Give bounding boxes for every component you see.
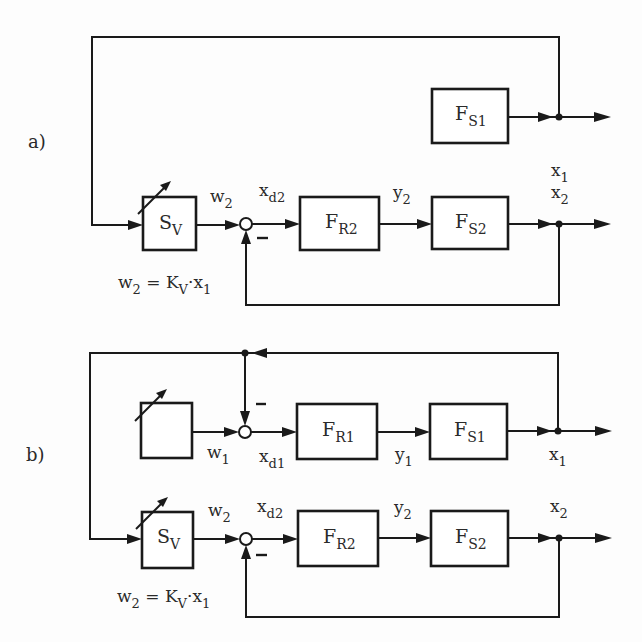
part-b: b) FR1 FS1: [26, 348, 612, 617]
arrowhead-icon: [595, 426, 612, 436]
diagram-canvas: a) SV FR2 FS2: [0, 0, 642, 642]
setpoint-block: [135, 389, 192, 458]
gain-formula: w2 = KV·x1: [118, 272, 211, 297]
arrowhead-icon: [538, 219, 553, 229]
summing-junction: [240, 533, 252, 545]
signal-xd2: xd2: [259, 180, 285, 205]
part-a: a) SV FR2 FS2: [28, 37, 611, 305]
arrowhead-icon: [537, 426, 552, 436]
fs2-block: FS2: [432, 197, 508, 249]
arrowhead-icon: [594, 112, 611, 122]
arrowhead-icon: [225, 534, 240, 544]
signal-x1-b: x1: [549, 444, 567, 469]
arrowhead-icon: [282, 427, 297, 437]
arrowhead-icon: [538, 533, 553, 543]
arrowhead-icon: [224, 427, 239, 437]
fr2-block-b: FR2: [298, 511, 378, 566]
sv-block: SV: [138, 181, 196, 250]
signal-y2-b: y2: [393, 497, 412, 522]
arrowhead-icon: [128, 220, 143, 230]
arrowhead-icon: [417, 219, 432, 229]
signal-w2-b: w2: [208, 500, 231, 525]
signal-xd1: xd1: [259, 446, 285, 471]
signal-y2: y2: [392, 182, 411, 207]
arrowhead-icon: [538, 112, 553, 122]
fs1-block-b: FS1: [430, 404, 507, 459]
arrowhead-icon: [285, 219, 300, 229]
signal-x2-b: x2: [550, 496, 568, 521]
signal-xd2-b: xd2: [257, 496, 283, 521]
signal-y1: y1: [394, 444, 413, 469]
arrowhead-icon: [283, 534, 298, 544]
arrowhead-icon: [595, 533, 612, 543]
arrowhead-icon: [241, 230, 251, 244]
summing-junction: [239, 426, 251, 438]
arrowhead-icon: [594, 219, 611, 229]
signal-w1: w1: [207, 442, 230, 467]
branch-point: [555, 428, 562, 435]
fs2-block-b: FS2: [431, 511, 508, 566]
arrowhead-icon: [240, 411, 250, 426]
gain-formula-b: w2 = KV·x1: [117, 586, 210, 611]
part-a-label: a): [28, 131, 46, 152]
arrowhead-icon: [225, 220, 240, 230]
arrowhead-icon: [415, 427, 430, 437]
fr1-block: FR1: [297, 404, 377, 459]
arrowhead-icon: [241, 545, 251, 559]
signal-w2: w2: [210, 186, 233, 211]
fr2-block: FR2: [300, 197, 379, 250]
arrowhead-icon: [127, 534, 142, 544]
arrowhead-icon: [416, 533, 431, 543]
sv-block-b: SV: [136, 497, 193, 568]
fs1-block: FS1: [432, 89, 508, 143]
branch-point: [556, 114, 563, 121]
summing-junction: [240, 218, 252, 230]
part-b-label: b): [26, 444, 45, 465]
block-diagram: a) SV FR2 FS2: [0, 0, 642, 642]
arrowhead-icon: [252, 348, 267, 358]
signal-x2: x2: [551, 182, 569, 207]
